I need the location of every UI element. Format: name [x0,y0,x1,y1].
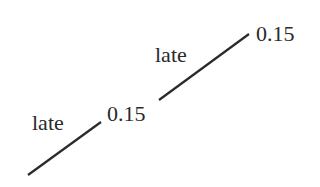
branch-2-probability-label: 0.15 [256,23,295,45]
branch-1-probability-label: 0.15 [107,103,146,125]
branch-2-outcome-label: late [155,44,187,66]
branch-1-outcome-label: late [32,112,64,134]
